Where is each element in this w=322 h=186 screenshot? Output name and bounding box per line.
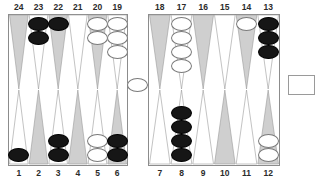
point-label-8: 8: [171, 168, 193, 178]
point-label-16: 16: [192, 2, 214, 12]
checker-white-point-14[interactable]: [236, 17, 257, 31]
point-label-18: 18: [149, 2, 171, 12]
checker-black-point-8[interactable]: [171, 134, 192, 148]
checker-white-point-20[interactable]: [87, 17, 108, 31]
point-label-15: 15: [214, 2, 236, 12]
checker-white-point-19[interactable]: [107, 17, 128, 31]
checker-black-point-22[interactable]: [48, 17, 69, 31]
checker-white-point-5[interactable]: [87, 134, 108, 148]
bear-off-tray[interactable]: [288, 75, 315, 95]
checker-white-point-17[interactable]: [171, 45, 192, 59]
point-label-10: 10: [214, 168, 236, 178]
point-label-14: 14: [236, 2, 258, 12]
checker-black-point-13[interactable]: [258, 17, 279, 31]
checker-black-point-8[interactable]: [171, 120, 192, 134]
checker-black-point-13[interactable]: [258, 45, 279, 59]
checker-white-point-19[interactable]: [107, 31, 128, 45]
checker-white-point-5[interactable]: [87, 148, 108, 162]
point-label-9: 9: [192, 168, 214, 178]
checker-white-point-17[interactable]: [171, 59, 192, 73]
checker-black-point-3[interactable]: [48, 134, 69, 148]
checker-white-point-19[interactable]: [107, 45, 128, 59]
point-label-7: 7: [149, 168, 171, 178]
checker-black-point-23[interactable]: [28, 17, 49, 31]
checker-white-point-17[interactable]: [171, 31, 192, 45]
checker-white-point-12[interactable]: [258, 134, 279, 148]
checker-white-point-12[interactable]: [258, 148, 279, 162]
point-label-17: 17: [171, 2, 193, 12]
point-label-12: 12: [257, 168, 279, 178]
checker-white-point-20[interactable]: [87, 31, 108, 45]
point-label-19: 19: [106, 2, 128, 12]
point-label-6: 6: [106, 168, 128, 178]
point-label-13: 13: [257, 2, 279, 12]
checker-black-point-13[interactable]: [258, 31, 279, 45]
checker-white-point-17[interactable]: [171, 17, 192, 31]
checker-black-point-3[interactable]: [48, 148, 69, 162]
backgammon-board: 242322212019181716151413 123456789101112: [0, 0, 322, 186]
checker-black-point-6[interactable]: [107, 134, 128, 148]
point-label-11: 11: [236, 168, 258, 178]
checker-white-on-bar[interactable]: [127, 78, 148, 92]
checker-black-point-6[interactable]: [107, 148, 128, 162]
checker-black-point-8[interactable]: [171, 106, 192, 120]
checker-black-point-8[interactable]: [171, 148, 192, 162]
checker-black-point-23[interactable]: [28, 31, 49, 45]
